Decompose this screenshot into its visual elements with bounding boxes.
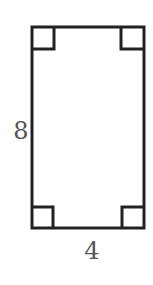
right-angle-marker-bottom-left	[32, 207, 53, 228]
bottom-side-label: 4	[84, 237, 99, 265]
rectangle-outline	[32, 27, 144, 228]
left-side-label: 8	[13, 117, 28, 145]
right-angle-marker-top-left	[32, 27, 54, 49]
right-angle-marker-top-right	[121, 27, 144, 49]
rectangle-diagram: 8 4	[0, 0, 153, 285]
right-angle-marker-bottom-right	[122, 207, 144, 228]
